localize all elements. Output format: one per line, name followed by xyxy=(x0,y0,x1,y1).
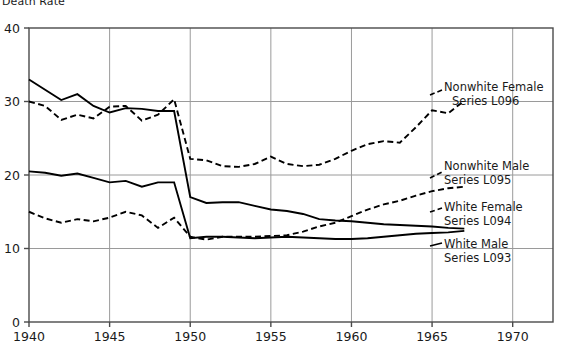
label-white-female-line2: Series L094 xyxy=(444,214,511,228)
series-label-nonwhite-male: Nonwhite Male Series L095 xyxy=(444,159,529,187)
series-label-nonwhite-female: Nonwhite Female Series L096 xyxy=(444,80,544,108)
label-nonwhite-female-line2: Series L096 xyxy=(452,94,519,108)
line-chart: 010203040 1940194519501955196019651970 N… xyxy=(0,0,561,348)
x-axis-label-1970: 1970 xyxy=(497,329,529,344)
x-axis-label-1965: 1965 xyxy=(416,329,448,344)
y-axis-label-0: 0 xyxy=(12,315,20,330)
x-axis-label-1960: 1960 xyxy=(336,329,368,344)
chart-axis-title: Death Rate xyxy=(2,0,65,8)
x-axis-labels: 1940194519501955196019651970 xyxy=(13,329,529,344)
label-nonwhite-male-line1: Nonwhite Male xyxy=(444,159,529,173)
series-label-white-female: White Female Series L094 xyxy=(444,200,523,228)
y-axis-label-30: 30 xyxy=(4,94,20,109)
y-axis-label-40: 40 xyxy=(4,21,20,36)
label-nonwhite-male-line2: Series L095 xyxy=(444,173,511,187)
y-axis-label-10: 10 xyxy=(4,241,20,256)
series-line-white-male xyxy=(29,171,464,239)
axis-ticks xyxy=(24,28,513,327)
x-axis-label-1945: 1945 xyxy=(94,329,126,344)
label-white-female-line1: White Female xyxy=(444,200,523,214)
label-nonwhite-female-line1: Nonwhite Female xyxy=(444,80,544,94)
x-axis-label-1950: 1950 xyxy=(174,329,206,344)
series-line-white-female xyxy=(29,187,464,240)
label-white-male-line1: White Male xyxy=(444,237,508,251)
chart-container: Death Rate 010203040 1940194519501955196… xyxy=(0,0,561,348)
x-axis-label-1955: 1955 xyxy=(255,329,287,344)
y-axis-labels: 010203040 xyxy=(4,21,20,330)
x-axis-label-1940: 1940 xyxy=(13,329,45,344)
series-label-white-male: White Male Series L093 xyxy=(444,237,511,265)
data-series-layer xyxy=(29,79,464,239)
series-line-nonwhite-female xyxy=(29,99,464,167)
label-white-male-line2: Series L093 xyxy=(444,251,511,265)
y-axis-label-20: 20 xyxy=(4,168,20,183)
